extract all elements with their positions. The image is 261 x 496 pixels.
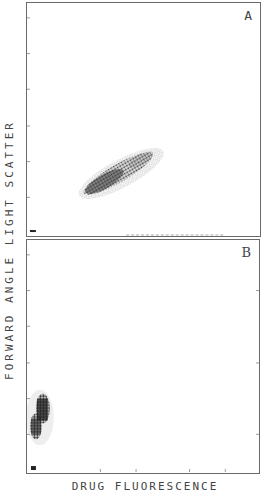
panel-a-plot-area (27, 3, 260, 236)
scatter-panel-a: A (26, 2, 261, 237)
scatter-panel-b: B (26, 239, 260, 474)
origin-debris-a (30, 230, 36, 232)
origin-debris-b (31, 466, 36, 470)
y-axis-ticks-a (27, 18, 30, 197)
panel-label-a: A (244, 8, 252, 23)
y-axis-ticks-b (27, 255, 259, 434)
panel-label-b: B (241, 245, 251, 260)
panel-b-plot-area (27, 240, 259, 473)
x-axis-label: DRUG FLUORESCENCE (0, 480, 261, 493)
y-axis-label: FORWARD ANGLE LIGHT SCATTER (3, 120, 16, 380)
